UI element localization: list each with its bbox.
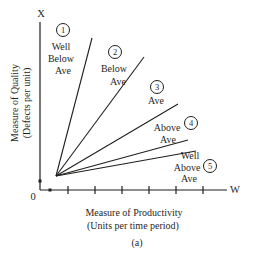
rating-labels: 1WellBelowAve2BelowAve3Ave4AboveAve5Well… [48, 24, 217, 185]
rating-label-text: Below [101, 63, 128, 74]
y-axis-title-line2: (Defects per unit) [21, 68, 33, 139]
rating-lines [56, 38, 196, 176]
rating-label-text: Below [48, 53, 75, 64]
rating-label-text: Ave [110, 76, 126, 87]
x-axis-end-label: W [230, 184, 240, 195]
y-axis-end-label: X [37, 8, 45, 19]
rating-number-3: 3 [155, 82, 159, 92]
x-axis-title-line1: Measure of Productivity [85, 207, 182, 218]
figure-canvas: 1WellBelowAve2BelowAve3Ave4AboveAve5Well… [0, 0, 260, 260]
rating-label-text: Ave [55, 65, 71, 76]
rating-label-text: Ave [181, 173, 197, 184]
rating-label-text: Ave [160, 134, 176, 145]
rating-label-text: Ave [148, 95, 164, 106]
axis-marker-dot [39, 180, 42, 183]
axis-marker-dot [49, 189, 52, 192]
rating-number-4: 4 [189, 118, 194, 128]
rating-line-4 [56, 140, 188, 176]
rating-number-5: 5 [208, 161, 212, 171]
rating-number-1: 1 [61, 25, 65, 35]
quality-vs-productivity-graph: 1WellBelowAve2BelowAve3Ave4AboveAve5Well… [0, 0, 260, 260]
rating-label-text: Above [174, 162, 201, 173]
rating-label-text: Above [154, 122, 181, 133]
rating-number-2: 2 [113, 47, 117, 57]
x-axis-title-line2: (Units per time period) [87, 220, 179, 232]
y-axis-title-line1: Measure of Quality [9, 64, 20, 142]
rating-label-text: Well [181, 150, 200, 161]
rating-label-text: Well [52, 41, 71, 52]
origin-label: 0 [30, 191, 35, 202]
figure-caption: (a) [131, 237, 142, 249]
